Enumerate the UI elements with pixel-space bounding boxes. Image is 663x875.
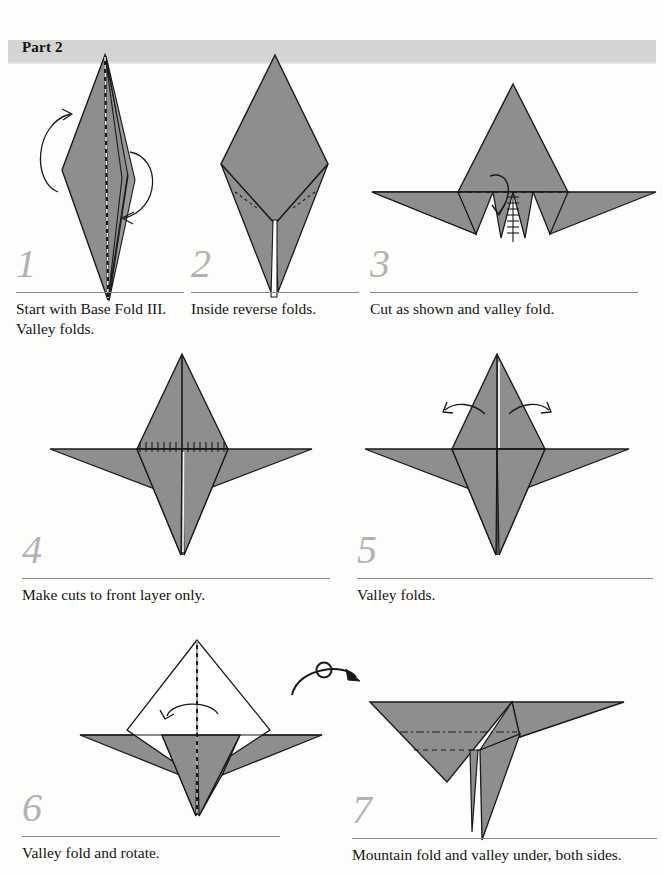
step-3: 3 Cut as shown and valley fold. — [368, 52, 660, 322]
step-1-diagram — [10, 52, 185, 247]
step-7-number: 7 — [352, 790, 372, 830]
step-2-number: 2 — [191, 244, 211, 284]
step-5-number: 5 — [357, 530, 377, 570]
step-2-rule — [191, 292, 359, 293]
step-1-rule — [16, 292, 184, 293]
step-2-diagram — [185, 52, 365, 247]
step-4: 4 Make cuts to front layer only. — [22, 352, 352, 597]
step-4-diagram — [22, 352, 352, 567]
page-title: Part 2 — [22, 39, 63, 56]
step-6-rule — [22, 836, 280, 837]
step-5: 5 Valley folds. — [357, 352, 657, 597]
step-1-number: 1 — [16, 244, 36, 284]
origami-instruction-page: Part 2 — [0, 0, 663, 875]
step-5-diagram — [357, 352, 657, 567]
step-4-caption: Make cuts to front layer only. — [22, 585, 342, 605]
step-1: 1 Start with Base Fold III. Valley folds… — [10, 52, 185, 322]
step-6-caption: Valley fold and rotate. — [22, 843, 322, 863]
step-3-number: 3 — [370, 244, 390, 284]
step-1-caption: Start with Base Fold III. Valley folds. — [16, 299, 176, 339]
step-2: 2 Inside reverse folds. — [185, 52, 365, 322]
step-2-caption: Inside reverse folds. — [191, 299, 366, 319]
step-7-diagram — [352, 682, 662, 852]
step-7-rule — [352, 838, 657, 839]
step-4-number: 4 — [22, 530, 42, 570]
step-5-rule — [357, 578, 653, 579]
step-3-diagram — [368, 52, 660, 247]
step-6-number: 6 — [22, 788, 42, 828]
step-5-caption: Valley folds. — [357, 585, 647, 605]
step-4-rule — [22, 578, 330, 579]
step-3-caption: Cut as shown and valley fold. — [370, 299, 655, 319]
step-3-rule — [370, 292, 638, 293]
step-7: 7 Mountain fold and valley under, both s… — [352, 682, 662, 872]
step-7-caption: Mountain fold and valley under, both sid… — [352, 845, 662, 865]
